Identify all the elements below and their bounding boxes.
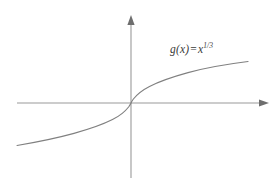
- y-axis-top-arrowhead: [127, 15, 134, 25]
- x-axis-right-arrowhead: [259, 99, 269, 106]
- curve-equation-label: g(x)=x1/3: [170, 41, 213, 55]
- cube-root-function-figure: g(x)=x1/3: [0, 0, 276, 189]
- label-exponent: 1/3: [203, 41, 213, 50]
- plot-canvas: [0, 0, 276, 189]
- label-equals-sign: =: [189, 43, 198, 55]
- label-function-prefix: g(x): [170, 43, 189, 55]
